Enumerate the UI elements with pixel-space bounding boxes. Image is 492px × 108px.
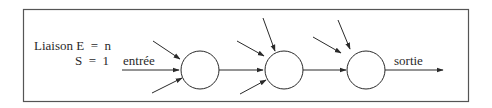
neuron-2 (265, 51, 303, 89)
liaison-label-line2: S = 1 (75, 54, 109, 68)
neuron-3 (347, 51, 385, 89)
liaison-label-line1: Liaison E = n (34, 39, 111, 53)
neuron-chain-diagram: Liaison E = n S = 1 entrée sortie (0, 0, 492, 108)
input-label: entrée (123, 54, 155, 68)
output-label: sortie (394, 54, 423, 68)
neuron-1 (181, 51, 219, 89)
neuron-3-inputs (313, 20, 350, 53)
